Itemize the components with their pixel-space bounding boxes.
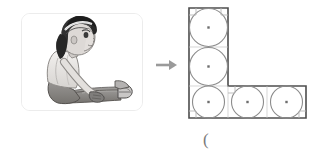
figure-page: ( [0, 0, 325, 156]
right-arrow-icon [154, 55, 180, 75]
dot-top [207, 26, 209, 28]
l-shaped-figure-with-circles [183, 2, 315, 124]
seated-child-illustration [22, 14, 143, 111]
dot-bottom-left [207, 101, 209, 103]
dot-bottom-center [246, 101, 248, 103]
dot-middle [207, 65, 209, 67]
caption-text: ( [203, 127, 313, 153]
dot-bottom-right [285, 101, 287, 103]
photo-card [21, 13, 143, 111]
